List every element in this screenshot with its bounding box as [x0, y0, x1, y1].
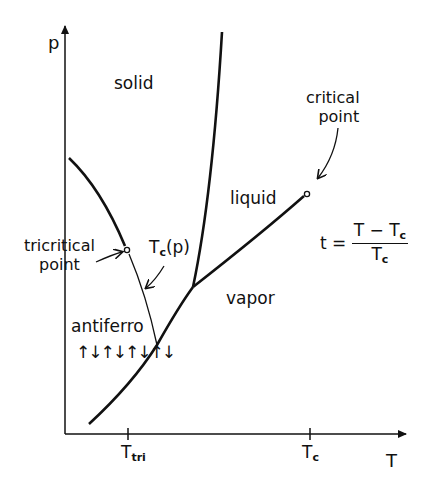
vapor-label: vapor: [226, 290, 275, 307]
solid-label: solid: [114, 75, 154, 92]
spin-arrows-icon: ↑↓↑↓↑↓↑↓: [76, 344, 174, 361]
tricritical-point-marker: [124, 247, 129, 252]
antiferro-label: antiferro: [71, 318, 144, 335]
tc-p-arrow: [146, 266, 164, 288]
phase-diagram: p T Ttri Tc solid liquid vapor antiferro…: [0, 0, 425, 482]
critical-point-arrow: [318, 128, 338, 178]
tricritical-point-label: tricritical point: [24, 236, 95, 274]
critical-point-marker: [304, 191, 309, 196]
t-axis-label: T: [386, 452, 397, 470]
vaporization-curve: [193, 196, 304, 287]
tc-p-label: Tc(p): [149, 239, 190, 258]
tricritical-arrow: [96, 252, 122, 262]
t-c-label: Tc: [302, 444, 319, 463]
p-axis-label: p: [48, 34, 59, 52]
melting-curve: [193, 32, 222, 287]
reduced-temperature-formula: t = T − Tc Tc: [320, 222, 408, 265]
first-order-line: [69, 158, 125, 246]
critical-point-label: critical point: [306, 88, 360, 126]
liquid-label: liquid: [230, 190, 277, 207]
t-tri-label: Ttri: [121, 444, 146, 463]
